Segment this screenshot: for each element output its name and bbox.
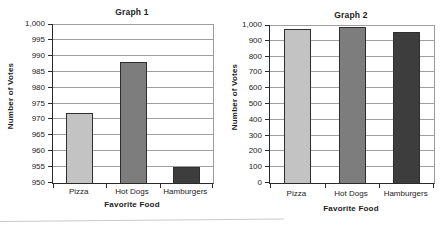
y-tick-mark bbox=[265, 87, 269, 88]
plot-area bbox=[269, 25, 435, 184]
y-axis-tick-labels: 01002003004005006007008009001,000 bbox=[220, 25, 264, 183]
gridline bbox=[270, 25, 434, 26]
x-axis-category-labels: PizzaHot DogsHamburgers bbox=[269, 189, 433, 199]
y-tick-label: 995 bbox=[0, 36, 45, 44]
bar-hot-dogs bbox=[339, 27, 366, 183]
y-tick-label: 1,000 bbox=[220, 21, 262, 29]
y-tick-label: 955 bbox=[0, 163, 45, 171]
y-tick-mark bbox=[265, 119, 269, 120]
y-tick-label: 0 bbox=[220, 179, 262, 187]
y-tick-label: 985 bbox=[0, 68, 45, 76]
x-axis-title: Favorite Food bbox=[269, 204, 433, 213]
y-tick-mark bbox=[48, 39, 52, 40]
y-tick-mark bbox=[265, 56, 269, 57]
chart-title: Graph 1 bbox=[52, 7, 212, 17]
gridline bbox=[53, 55, 213, 56]
y-tick-label: 200 bbox=[220, 147, 262, 155]
y-tick-label: 950 bbox=[0, 179, 45, 187]
chart-graph-1: Graph 1 Number of Votes 9509559609659709… bbox=[0, 0, 220, 225]
y-tick-mark bbox=[265, 71, 269, 72]
x-tick-mark bbox=[270, 184, 271, 188]
x-tick-mark bbox=[212, 184, 213, 188]
y-tick-label: 970 bbox=[0, 115, 45, 123]
y-tick-label: 800 bbox=[220, 53, 262, 61]
y-tick-mark bbox=[265, 103, 269, 104]
chart-title: Graph 2 bbox=[269, 10, 433, 20]
y-tick-label: 960 bbox=[0, 147, 45, 155]
y-tick-mark bbox=[265, 182, 269, 183]
bar-hamburgers bbox=[393, 32, 420, 183]
y-tick-label: 400 bbox=[220, 116, 262, 124]
x-tick-mark bbox=[325, 184, 326, 188]
y-tick-label: 980 bbox=[0, 84, 45, 92]
y-tick-label: 975 bbox=[0, 100, 45, 108]
y-tick-mark bbox=[265, 150, 269, 151]
x-tick-mark bbox=[379, 184, 380, 188]
bar-pizza bbox=[66, 113, 93, 183]
y-tick-label: 600 bbox=[220, 84, 262, 92]
plot-area bbox=[52, 24, 214, 184]
y-tick-mark bbox=[48, 118, 52, 119]
x-axis-title: Favorite Food bbox=[52, 200, 212, 209]
category-label: Hot Dogs bbox=[105, 187, 158, 196]
y-tick-mark bbox=[48, 24, 52, 25]
y-tick-mark bbox=[265, 166, 269, 167]
y-tick-mark bbox=[48, 150, 52, 151]
y-tick-mark bbox=[48, 87, 52, 88]
y-axis-tick-labels: 9509559609659709759809859909951,000 bbox=[0, 24, 47, 183]
gridline bbox=[53, 24, 213, 25]
y-tick-label: 990 bbox=[0, 52, 45, 60]
category-label: Pizza bbox=[269, 189, 324, 198]
gridline bbox=[53, 39, 213, 40]
chart-graph-2: Graph 2 Number of Votes 0100200300400500… bbox=[220, 0, 441, 225]
x-axis-category-labels: PizzaHot DogsHamburgers bbox=[52, 187, 212, 197]
y-tick-mark bbox=[48, 134, 52, 135]
category-label: Hamburgers bbox=[378, 189, 433, 198]
y-tick-label: 500 bbox=[220, 100, 262, 108]
y-tick-mark bbox=[265, 135, 269, 136]
y-tick-mark bbox=[48, 55, 52, 56]
y-tick-label: 1,000 bbox=[0, 20, 45, 28]
bar-hamburgers bbox=[173, 167, 200, 183]
y-tick-mark bbox=[48, 103, 52, 104]
y-tick-label: 300 bbox=[220, 132, 262, 140]
category-label: Hamburgers bbox=[159, 187, 212, 196]
y-tick-label: 900 bbox=[220, 37, 262, 45]
y-tick-mark bbox=[265, 40, 269, 41]
y-tick-label: 965 bbox=[0, 131, 45, 139]
category-label: Hot Dogs bbox=[324, 189, 379, 198]
category-label: Pizza bbox=[52, 187, 105, 196]
y-tick-mark bbox=[48, 166, 52, 167]
bar-hot-dogs bbox=[120, 62, 147, 183]
y-tick-mark bbox=[265, 25, 269, 26]
y-tick-mark bbox=[48, 71, 52, 72]
y-tick-label: 700 bbox=[220, 68, 262, 76]
bar-pizza bbox=[284, 29, 311, 183]
y-tick-mark bbox=[48, 182, 52, 183]
x-tick-mark bbox=[433, 184, 434, 188]
scanned-chart-page: Graph 1 Number of Votes 9509559609659709… bbox=[0, 0, 441, 225]
y-tick-label: 100 bbox=[220, 163, 262, 171]
